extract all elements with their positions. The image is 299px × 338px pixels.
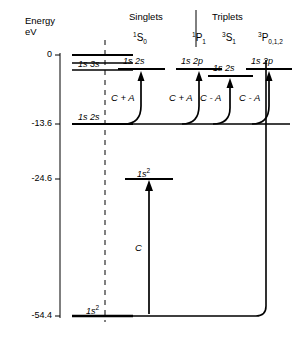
level-label-1s2s-left: 1s 2s [78, 113, 100, 122]
axis-tick-label-54-4: -54.4 [8, 311, 52, 320]
config-label-1: 1s 2s [123, 57, 145, 66]
arrowhead-col-2 [196, 71, 203, 81]
config-label-3: 1s 2s [213, 64, 235, 73]
term-symbol-1: 1S0 [133, 32, 147, 46]
transition-label-4: C - A [239, 93, 260, 103]
level-label-1s3s: 1s 3s [78, 60, 100, 69]
term-sub-2: 1 [202, 38, 206, 45]
config-label-2: 1s 2p [181, 57, 203, 66]
term-symbol-2: 1P1 [192, 32, 206, 46]
group-header-singlets: Singlets [129, 12, 163, 22]
axis-tick-label-13-6: -13.6 [8, 119, 52, 128]
mid-superscript: 2 [147, 167, 151, 174]
term-sub-3: 1 [232, 38, 236, 45]
axis-tick-label-0: 0 [8, 50, 52, 59]
transition-label-1: C + A [111, 93, 135, 103]
arrowhead-col-1 [138, 71, 145, 81]
energy-level-diagram: Energy eV 0 -13.6 -24.6 -54.4 1s 3s 1s 2… [0, 0, 299, 338]
main-arrowhead [145, 180, 153, 191]
axis-title-line2: eV [25, 26, 37, 37]
ground-superscript: 2 [96, 304, 100, 311]
level-label-1s2-ground: 1s2 [86, 305, 99, 316]
main-transition-label: C [135, 243, 142, 253]
axis-title-line1: Energy [25, 15, 55, 26]
config-label-4: 1s 2p [251, 57, 273, 66]
transition-arrowheads [138, 71, 273, 88]
level-label-1s2-mid: 1s2 [137, 168, 150, 179]
transition-label-2: C + A [169, 93, 193, 103]
term-sub-1: 0 [143, 38, 147, 45]
axis-tick-label-24-6: -24.6 [8, 174, 52, 183]
axis-title: Energy eV [25, 16, 55, 38]
term-symbol-3: 3S1 [222, 32, 236, 46]
term-sub-4: 0,1,2 [268, 38, 282, 45]
arrowhead-col-3 [227, 78, 234, 88]
transition-label-3: C - A [200, 93, 221, 103]
term-symbol-4: 3P0,1,2 [258, 32, 283, 46]
group-header-triplets: Triplets [212, 12, 243, 22]
